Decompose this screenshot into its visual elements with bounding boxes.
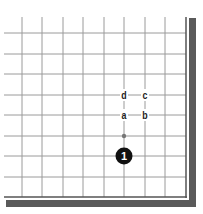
go-board-diagram: dcab 1 — [0, 0, 203, 214]
board-frame-right — [189, 18, 196, 207]
point-marker-dot — [122, 134, 126, 138]
move-label-a: a — [122, 109, 127, 121]
board-stones: 1 — [116, 148, 133, 165]
move-label-b: b — [142, 109, 147, 121]
move-label-c: c — [143, 89, 148, 101]
board-frame-bottom — [6, 200, 196, 207]
black-stone: 1 — [116, 148, 133, 165]
board-grid — [4, 17, 186, 197]
board-edge — [4, 17, 196, 207]
board-markers — [122, 134, 126, 138]
move-label-d: d — [121, 89, 126, 101]
stone-move-number: 1 — [121, 150, 127, 162]
